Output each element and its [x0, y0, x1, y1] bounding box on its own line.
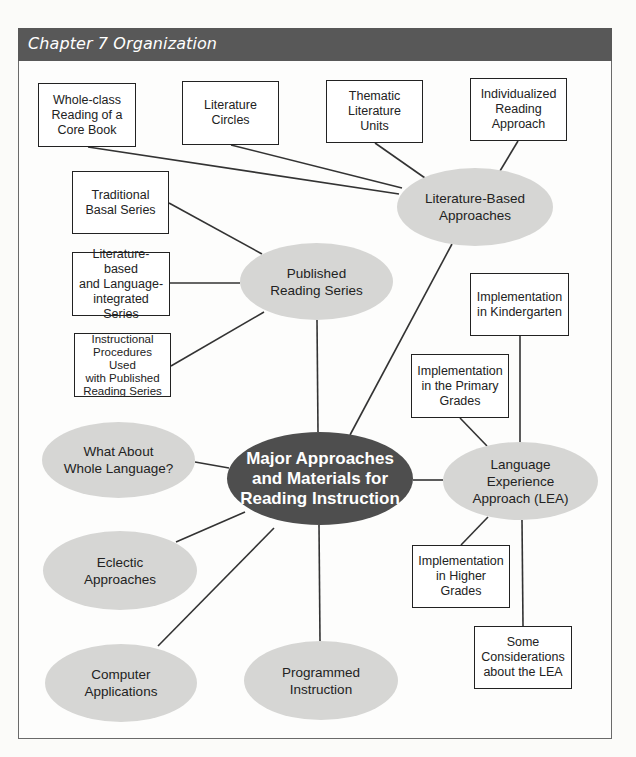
link-individualized	[500, 141, 518, 171]
link-center-published	[317, 320, 318, 432]
link-center-eclectic	[176, 512, 245, 542]
link-considerations	[522, 520, 523, 626]
box-implementation-kindergarten: Implementation in Kindergarten	[470, 273, 569, 336]
link-center-programmed	[319, 525, 320, 641]
node-literature-based-approaches: Literature-Based Approaches	[397, 168, 553, 246]
node-eclectic-approaches: Eclectic Approaches	[43, 531, 197, 610]
link-center-whole-language	[195, 462, 229, 468]
box-lea-considerations: Some Considerations about the LEA	[474, 626, 572, 689]
box-literature-circles: Literature Circles	[182, 81, 279, 145]
node-language-experience-approach: Language Experience Approach (LEA)	[443, 442, 598, 520]
node-programmed-instruction: Programmed Instruction	[244, 641, 398, 720]
box-whole-class-reading: Whole-class Reading of a Core Book	[38, 83, 136, 147]
box-thematic-literature-units: Thematic Literature Units	[326, 80, 423, 143]
link-higher	[461, 517, 488, 545]
link-traditional-basal	[169, 203, 262, 254]
box-individualized-reading: Individualized Reading Approach	[470, 78, 567, 141]
box-implementation-primary: Implementation in the Primary Grades	[411, 354, 509, 418]
box-instructional-procedures: Instructional Procedures Used with Publi…	[74, 333, 171, 397]
box-traditional-basal-series: Traditional Basal Series	[72, 171, 169, 234]
node-whole-language: What About Whole Language?	[42, 422, 195, 498]
node-center-major-approaches: Major Approaches and Materials for Readi…	[227, 432, 413, 525]
link-primary	[460, 418, 487, 446]
box-literature-language-integrated: Literature-based and Language- integrate…	[72, 252, 170, 316]
link-instructional	[171, 312, 264, 366]
box-implementation-higher: Implementation in Higher Grades	[412, 545, 510, 608]
node-computer-applications: Computer Applications	[45, 644, 197, 722]
link-thematic	[375, 143, 425, 178]
node-published-reading-series: Published Reading Series	[240, 243, 393, 320]
